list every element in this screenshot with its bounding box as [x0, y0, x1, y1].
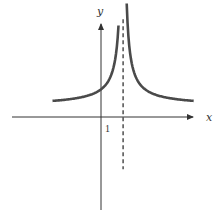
- curve-right-branch: [127, 3, 194, 100]
- x-tick-label-1: 1: [105, 123, 110, 134]
- y-axis-label: y: [96, 5, 104, 18]
- curve-left-branch: [53, 25, 119, 100]
- x-axis-label: x: [206, 111, 213, 124]
- chart: y x 1: [0, 0, 215, 210]
